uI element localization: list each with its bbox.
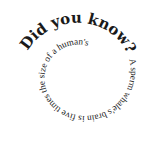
headline-text: Did you know? [16,9,142,61]
spiral-text-graphic: Did you know? A sperm whale's brain is f… [0,0,164,149]
spiral-text: Did you know? A sperm whale's brain is f… [16,9,142,124]
